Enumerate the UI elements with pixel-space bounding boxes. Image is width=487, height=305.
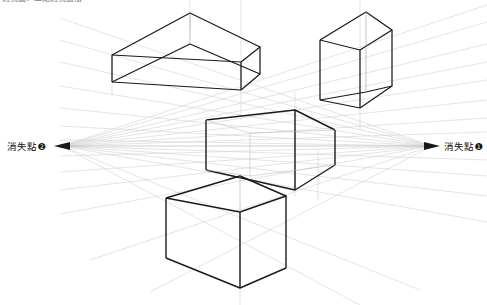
guide-lines-vp1 <box>60 18 432 292</box>
box-bottom <box>166 176 286 288</box>
guide-lines-vp2 <box>62 5 487 305</box>
vanishing-point-1-label: 消失點❶ <box>444 142 483 152</box>
box-center <box>206 110 335 190</box>
vp2-marker <box>54 142 70 150</box>
vertical-guides <box>112 0 360 305</box>
perspective-diagram-canvas: 透視圖：二點透視畫法 <box>0 0 487 305</box>
vanishing-point-2-label: 消失點❷ <box>7 142 46 152</box>
vp1-marker <box>424 142 440 150</box>
perspective-drawing <box>0 0 487 305</box>
